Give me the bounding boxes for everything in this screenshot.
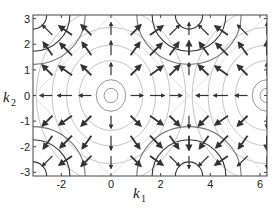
quiver-arrow [150,116,163,125]
quiver-arrow [42,65,52,75]
x-tick-label: 2 [158,178,164,190]
quiver-arrow [198,116,208,126]
svg-text:k: k [3,89,10,105]
quiver-arrow [43,136,52,149]
quiver-arrow [170,156,180,166]
quiver-arrow [170,65,180,75]
x-tick-label: 4 [207,178,213,190]
contour-light [96,80,125,112]
y-tick-label: -1 [20,115,30,127]
y-axis-label: k 2 [3,89,16,108]
contour-light [104,88,118,102]
quiver-arrow [170,116,180,126]
quiver-arrow [170,42,179,55]
quiver-arrow [43,42,52,55]
contour-lines [0,0,278,210]
contour-dark [0,140,70,210]
y-tick-label: 3 [24,13,30,25]
y-tick-label: 1 [24,64,30,76]
quiver-arrow [170,25,180,35]
y-tick-label: -2 [20,141,30,153]
y-tick-label: 2 [24,38,30,50]
x-tick-label: -2 [56,178,66,190]
svg-text:1: 1 [141,193,146,204]
x-tick-label: 6 [257,178,263,190]
quiver-arrow [42,116,52,126]
quiver-arrows [40,22,267,168]
quiver-arrow [150,66,163,75]
y-axis-ticks: 3210-1-2-3 [20,13,267,179]
quiver-arrow [59,66,72,75]
quiver-arrow [215,116,228,125]
contour-quiver-plot: -20246 3210-1-2-3 k 1 k 2 [0,0,278,210]
contour-dark [0,127,85,210]
x-axis-label: k 1 [133,185,146,204]
x-tick-label: 0 [108,178,114,190]
y-tick-label: 0 [24,90,30,102]
quiver-arrow [42,25,52,35]
quiver-arrow [170,136,179,149]
svg-text:k: k [133,185,140,201]
quiver-arrow [198,25,208,35]
y-tick-label: -3 [20,166,30,178]
quiver-arrow [198,65,208,75]
svg-text:2: 2 [11,97,16,108]
quiver-arrow [59,116,72,125]
quiver-arrow [42,156,52,166]
quiver-arrow [198,156,208,166]
contour-light [222,45,278,146]
quiver-arrow [215,66,228,75]
contour-dark [152,140,226,210]
